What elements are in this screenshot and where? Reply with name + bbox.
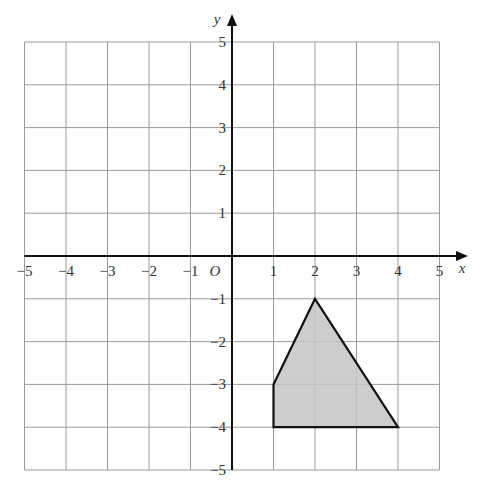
y-tick-label: 4: [219, 77, 227, 93]
y-tick-label: 3: [219, 120, 227, 136]
x-axis-label: x: [458, 260, 466, 276]
y-tick-label: 2: [219, 162, 227, 178]
y-tick-label: −2: [210, 334, 226, 350]
y-axis-label: y: [212, 11, 221, 27]
coordinate-plane: −5−4−3−2−11234554321−1−2−3−4−5Oxy: [0, 0, 485, 490]
y-tick-label: −1: [210, 291, 226, 307]
y-tick-label: −4: [210, 419, 226, 435]
y-tick-label: 1: [219, 205, 227, 221]
origin-label: O: [210, 263, 221, 279]
y-tick-label: −3: [210, 376, 226, 392]
x-tick-label: 5: [436, 263, 444, 279]
coordinate-grid-diagram: −5−4−3−2−11234554321−1−2−3−4−5Oxy: [0, 0, 485, 490]
y-axis-arrow-icon: [227, 14, 237, 26]
axes: [25, 14, 469, 470]
x-tick-label: 2: [311, 263, 319, 279]
x-tick-label: 3: [353, 263, 361, 279]
x-tick-label: −1: [183, 263, 199, 279]
shapes-layer: [274, 299, 399, 427]
x-tick-label: 1: [270, 263, 278, 279]
x-tick-label: −4: [58, 263, 74, 279]
x-tick-label: −3: [100, 263, 116, 279]
shaded-quadrilateral: [274, 299, 399, 427]
x-tick-label: −5: [17, 263, 33, 279]
y-tick-label: −5: [210, 462, 226, 478]
x-tick-label: 4: [394, 263, 402, 279]
x-tick-label: −2: [141, 263, 157, 279]
y-tick-label: 5: [219, 34, 227, 50]
